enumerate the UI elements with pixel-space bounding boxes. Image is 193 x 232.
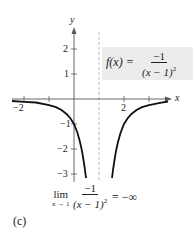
formula-numerator: −1 <box>151 50 167 63</box>
x-axis-arrow <box>165 97 172 102</box>
x-axis-label: x <box>175 92 179 103</box>
y-tick-label-neg3: −3 <box>57 168 68 179</box>
limit-denominator: (x − 1)2 <box>73 195 107 211</box>
limit-subscript: x → 1 <box>52 200 70 208</box>
figure-caption: (c) <box>13 214 26 229</box>
formula-lhs: f(x) = <box>106 55 134 70</box>
limit-denominator-base: (x − 1) <box>73 198 104 210</box>
limit-fraction: −1 (x − 1)2 <box>73 182 107 211</box>
limit-numerator: −1 <box>82 182 98 195</box>
limit-exponent: 2 <box>104 197 108 205</box>
formula-fraction: −1 (x − 1)2 <box>142 50 176 79</box>
y-tick-label-neg2: −2 <box>57 143 68 154</box>
limit-word: lim <box>53 188 68 200</box>
y-tick-label-1: 1 <box>64 68 69 79</box>
formula-denominator: (x − 1)2 <box>142 63 176 79</box>
formula-exponent: 2 <box>173 65 177 73</box>
limit-operator: lim x → 1 <box>52 188 70 208</box>
y-axis-label: y <box>70 14 74 25</box>
formula-denominator-base: (x − 1) <box>142 66 173 78</box>
y-axis-arrow <box>72 27 77 34</box>
limit-result: = −∞ <box>112 190 137 205</box>
x-tick-label-2: 2 <box>121 102 126 113</box>
y-tick-label-neg1: −1 <box>60 118 71 129</box>
y-tick-label-2: 2 <box>63 43 68 54</box>
x-tick-label-neg2: −2 <box>13 102 24 113</box>
